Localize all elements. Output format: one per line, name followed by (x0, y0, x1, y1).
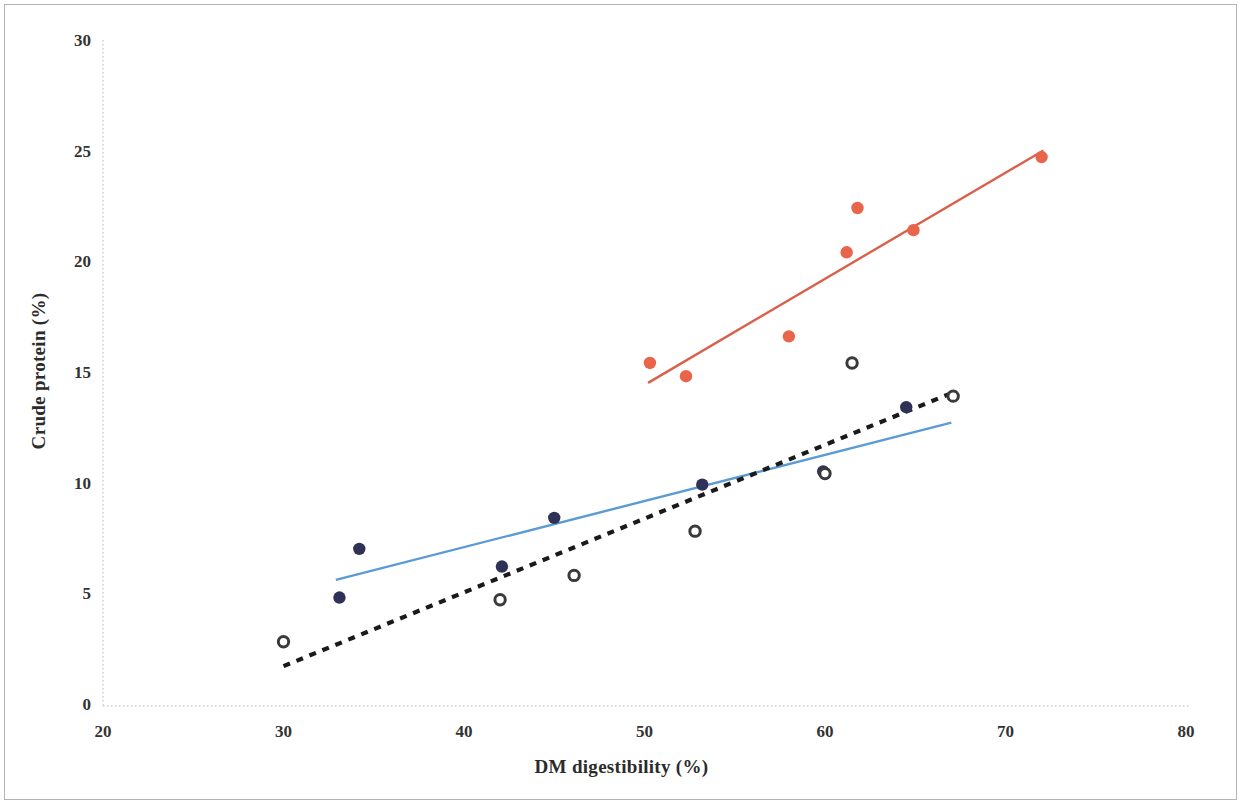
x-tick-label: 40 (439, 722, 489, 742)
data-point (333, 591, 345, 603)
y-tick-label: 15 (45, 363, 91, 383)
scatter-plot-svg (5, 5, 1238, 801)
data-point (696, 478, 708, 490)
axis-lines (103, 40, 1190, 706)
data-point (278, 637, 288, 647)
y-tick-label: 25 (45, 142, 91, 162)
y-tick-label: 0 (45, 695, 91, 715)
x-tick-label: 70 (981, 722, 1031, 742)
data-point (900, 401, 912, 413)
data-point (1035, 151, 1047, 163)
x-axis-title: DM digestibility (%) (5, 756, 1238, 778)
data-point (783, 330, 795, 342)
data-point (496, 560, 508, 572)
data-point (353, 543, 365, 555)
data-point (840, 246, 852, 258)
chart-plot-area: 051015202530 20304050607080 DM digestibi… (5, 5, 1238, 801)
data-point (548, 512, 560, 524)
x-tick-label: 80 (1161, 722, 1211, 742)
x-tick-label: 30 (259, 722, 309, 742)
data-point (907, 224, 919, 236)
x-tick-label: 50 (620, 722, 670, 742)
data-point (948, 391, 958, 401)
data-point (820, 468, 830, 478)
y-tick-label: 5 (45, 584, 91, 604)
data-point (644, 357, 656, 369)
x-tick-label: 60 (800, 722, 850, 742)
x-tick-label: 20 (78, 722, 128, 742)
data-point (495, 595, 505, 605)
trendline-red-series (648, 150, 1043, 382)
figure-frame: 051015202530 20304050607080 DM digestibi… (4, 4, 1237, 800)
data-point (569, 570, 579, 580)
y-tick-label: 30 (45, 31, 91, 51)
data-point (690, 526, 700, 536)
data-point (851, 202, 863, 214)
data-point (847, 358, 857, 368)
y-axis-title: Crude protein (%) (28, 171, 50, 571)
data-point (680, 370, 692, 382)
trendline-open-series (284, 392, 955, 666)
y-tick-label: 20 (45, 252, 91, 272)
y-tick-label: 10 (45, 474, 91, 494)
trendline-navy-series (336, 423, 952, 580)
trendlines-group (284, 150, 1044, 666)
